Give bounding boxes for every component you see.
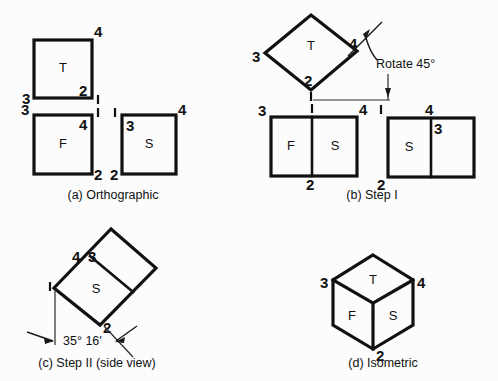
panel-a-top-vertex-2: 2 <box>79 82 87 99</box>
panel-b-front-face-right-label: S <box>331 138 340 153</box>
panel-d-side-face-label: S <box>389 308 398 323</box>
panel-d-top-face-label: T <box>369 272 377 287</box>
panel-c-vertex-2: 2 <box>103 319 111 336</box>
panel-b-front-view-rect <box>271 117 357 176</box>
panel-c-step-two: S 4 3 1 2 35° 16′ (c) Step II (side view… <box>27 229 156 370</box>
panel-b-top-vertex-4: 4 <box>349 35 358 52</box>
panel-a-front-vertex-3: 3 <box>21 101 29 118</box>
panel-c-face-label: S <box>92 281 101 296</box>
panel-a-caption: (a) Orthographic <box>67 188 158 202</box>
panel-a-front-face-label: F <box>59 136 67 151</box>
figure-page: T 4 3 2 1 F 3 4 2 1 S 1 3 4 2 (a) Orthog… <box>0 0 498 381</box>
panel-c-angle-leader-right <box>116 326 137 341</box>
panel-d-isometric: T F S 3 4 2 1 (d) Isometric <box>320 255 426 370</box>
panel-b-front-vertex-3: 3 <box>258 102 266 119</box>
panel-b-step-one: T 3 4 2 1 Rotate 45° F S 3 1 4 2 <box>252 15 474 202</box>
panel-b-rotate-annotation: Rotate 45° <box>376 57 435 71</box>
panel-b-side-vertex-4: 4 <box>425 101 434 118</box>
panel-b-front-vertex-2: 2 <box>306 176 314 193</box>
panel-c-caption: (c) Step II (side view) <box>38 356 155 370</box>
panel-b-side-face-label: S <box>405 139 414 154</box>
panel-b-side-vertex-3: 3 <box>434 120 442 137</box>
panel-b-caption: (b) Step I <box>346 188 397 202</box>
panel-c-vertex-3: 3 <box>88 248 96 265</box>
panel-a-front-vertex-4: 4 <box>79 116 88 133</box>
panel-b-top-face-label: T <box>307 38 315 53</box>
panel-d-front-face-label: F <box>348 308 356 323</box>
panel-a-top-vertex-4: 4 <box>94 23 103 40</box>
panel-a-side-face-label: S <box>145 136 154 151</box>
panel-a-orthographic: T 4 3 2 1 F 3 4 2 1 S 1 3 4 2 (a) Orthog… <box>21 23 187 202</box>
panel-a-side-vertex-2: 2 <box>110 166 118 183</box>
panel-b-front-vertex-4: 4 <box>359 101 368 118</box>
panel-a-side-vertex-3: 3 <box>126 117 134 134</box>
panel-a-front-vertex-2: 2 <box>94 166 102 183</box>
panel-b-top-vertex-3: 3 <box>252 48 260 65</box>
panel-c-vertex-4: 4 <box>72 248 81 265</box>
panel-c-rotated-rect <box>54 229 156 325</box>
panel-b-top-vertex-2: 2 <box>304 72 312 89</box>
panel-c-angle-annotation: 35° 16′ <box>63 334 102 348</box>
panel-d-vertex-4: 4 <box>417 274 426 291</box>
panel-a-side-vertex-4: 4 <box>178 101 187 118</box>
panel-a-top-face-label: T <box>59 60 67 75</box>
panel-d-cube-edge-right <box>373 280 413 303</box>
panel-d-caption: (d) Isometric <box>348 356 417 370</box>
panel-b-projection-arrowhead <box>385 88 391 98</box>
panel-d-cube-edge-left <box>333 280 373 303</box>
technical-drawing-figure: T 4 3 2 1 F 3 4 2 1 S 1 3 4 2 (a) Orthog… <box>0 0 498 381</box>
panel-d-vertex-3: 3 <box>320 274 328 291</box>
panel-b-front-face-left-label: F <box>287 138 295 153</box>
